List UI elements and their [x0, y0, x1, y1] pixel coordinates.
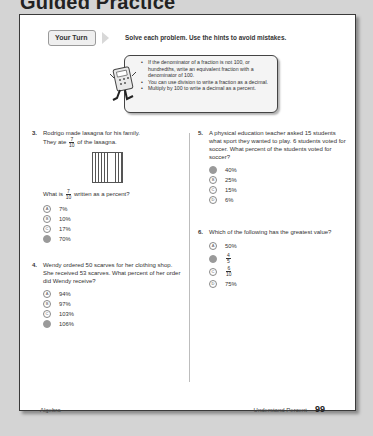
arrow-icon — [102, 32, 109, 44]
question-4: 4. Wendy ordered 50 scarves for her clot… — [32, 261, 184, 329]
option-b[interactable]: B45 — [209, 252, 348, 265]
hint-item: You can use division to write a fraction… — [141, 79, 271, 86]
column-divider — [189, 133, 190, 382]
option-d[interactable]: D6% — [209, 195, 348, 205]
option-c[interactable]: C103% — [43, 309, 184, 319]
question-text: Wendy ordered 50 scarves for her clothin… — [43, 261, 184, 285]
footer-subject: Algebra — [40, 407, 61, 413]
question-number: 3. — [32, 129, 37, 137]
option-a[interactable]: A94% — [43, 289, 184, 299]
question-number: 5. — [198, 129, 203, 137]
answer-options: A50% B45 C610 D75% — [209, 240, 348, 290]
section-title: Guided Practice — [20, 0, 175, 14]
option-b[interactable]: B10% — [43, 214, 182, 224]
option-c[interactable]: C17% — [43, 224, 182, 234]
question-5: 5. A physical education teacher asked 15… — [198, 129, 348, 205]
question-number: 4. — [32, 261, 37, 269]
question-text: Rodrigo made lasagna for his family. — [43, 129, 182, 137]
question-6: 6. Which of the following has the greate… — [198, 228, 348, 290]
question-text: A physical education teacher asked 15 st… — [209, 129, 348, 161]
your-turn-tab: Your Turn — [48, 30, 96, 46]
fraction: 610 — [226, 266, 232, 277]
option-d[interactable]: D70% — [43, 234, 182, 244]
fraction: 45 — [226, 253, 231, 264]
option-d[interactable]: D75% — [209, 278, 348, 290]
calculator-mascot-icon — [109, 66, 137, 106]
option-a[interactable]: A40% — [209, 165, 348, 175]
lesson-title: Understand Percent — [254, 407, 307, 413]
question-text: Which of the following has the greatest … — [209, 228, 348, 236]
option-b[interactable]: B97% — [43, 299, 184, 309]
worksheet-page: Your Turn Solve each problem. Use the hi… — [19, 14, 356, 411]
question-3: 3. Rodrigo made lasagna for his family. … — [32, 129, 182, 244]
hint-box: If the denominator of a fraction is not … — [124, 55, 278, 113]
answer-options: A7% B10% C17% D70% — [43, 204, 182, 244]
option-c[interactable]: C610 — [209, 265, 348, 278]
footer-lesson: Understand Percent 99 — [254, 404, 325, 414]
option-d[interactable]: D106% — [43, 319, 184, 329]
hint-item: If the denominator of a fraction is not … — [141, 59, 271, 79]
option-b[interactable]: B25% — [209, 175, 348, 185]
hint-item: Multiply by 100 to write a decimal as a … — [141, 85, 271, 92]
option-c[interactable]: C15% — [209, 185, 348, 195]
question-number: 6. — [198, 228, 203, 236]
option-a[interactable]: A50% — [209, 240, 348, 252]
page-number: 99 — [315, 404, 325, 414]
tenths-model — [92, 152, 123, 183]
fraction: 710 — [69, 137, 75, 148]
option-a[interactable]: A7% — [43, 204, 182, 214]
answer-options: A40% B25% C15% D6% — [209, 165, 348, 205]
fraction: 710 — [66, 189, 72, 200]
answer-options: A94% B97% C103% D106% — [43, 289, 184, 329]
instructions: Solve each problem. Use the hints to avo… — [125, 34, 286, 41]
